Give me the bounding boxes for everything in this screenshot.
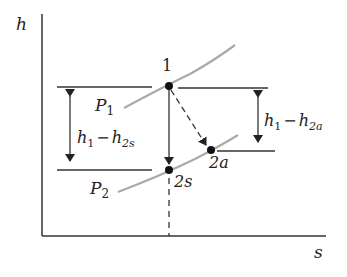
state-1-label: 1 — [162, 56, 172, 75]
h-s-diagram: h s P1 P2 h1−h2s h1−h2a 1 2s 2a — [0, 0, 347, 277]
isentropic-enthalpy-drop-label: h1−h2s — [77, 128, 135, 150]
state-2s-point — [165, 166, 173, 174]
actual-enthalpy-drop-label: h1−h2a — [264, 111, 323, 133]
isobar-p2-label: P2 — [89, 178, 109, 201]
isobar-p1 — [124, 45, 235, 108]
state-2a-label: 2a — [208, 153, 229, 172]
y-axis-label: h — [16, 14, 27, 34]
actual-process-line — [171, 90, 206, 145]
state-1-point — [165, 82, 173, 90]
x-axis-label: s — [314, 242, 323, 262]
isobar-p1-label: P1 — [94, 95, 114, 118]
state-2s-label: 2s — [173, 172, 192, 191]
